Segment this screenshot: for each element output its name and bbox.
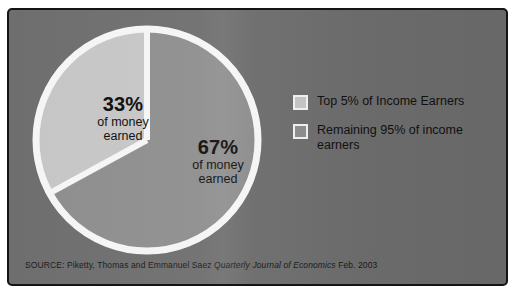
pie-label-remaining-95-percent: 67% [170,136,266,158]
legend-swatch-remaining-95 [293,124,308,139]
source-prefix: SOURCE: Piketty, Thomas and Emmanuel Sae… [25,260,212,270]
pie-label-remaining-95-line2: earned [170,172,266,186]
source-journal: Quarterly Journal of Economics [214,260,336,270]
source-date: Feb. 2003 [338,260,377,270]
pie-label-top-5-line1: of money [75,115,171,129]
pie-label-remaining-95-line1: of money [170,158,266,172]
pie-label-top-5-line2: earned [75,129,171,143]
legend-swatch-top-5 [293,95,308,110]
legend-item-remaining-95[interactable]: Remaining 95% of income earners [293,123,498,153]
legend-label-top-5: Top 5% of Income Earners [317,94,464,109]
pie-label-top-5-percent: 33% [75,93,171,115]
pie-label-top-5: 33% of money earned [75,93,171,143]
pie-label-remaining-95: 67% of money earned [170,136,266,186]
pie-chart: 33% of money earned 67% of money earned [27,20,267,260]
legend-label-remaining-95: Remaining 95% of income earners [317,123,498,153]
chart-legend: Top 5% of Income Earners Remaining 95% o… [293,94,498,166]
chart-panel: 33% of money earned 67% of money earned … [7,8,508,286]
chart-page: 33% of money earned 67% of money earned … [0,0,515,294]
source-citation: SOURCE: Piketty, Thomas and Emmanuel Sae… [25,260,377,270]
cropped-title-sliver [10,0,310,4]
legend-item-top-5[interactable]: Top 5% of Income Earners [293,94,498,110]
